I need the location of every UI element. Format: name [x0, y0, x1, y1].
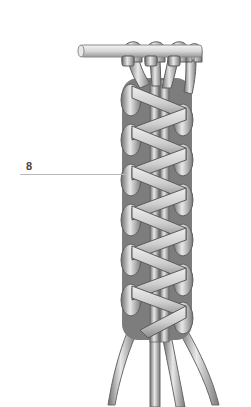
- callout-label: 8: [26, 160, 32, 172]
- mounting-rod: [78, 45, 202, 57]
- callout-leader-line: [20, 174, 126, 175]
- sinnet-body: [121, 78, 193, 342]
- sinnet-illustration: [0, 0, 251, 407]
